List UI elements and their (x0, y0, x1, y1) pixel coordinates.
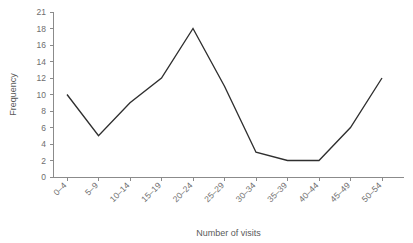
x-axis-tick-label: 35–39 (265, 180, 289, 204)
y-axis-tick-label: 14 (37, 57, 47, 67)
x-axis-tick-label: 30–34 (234, 180, 258, 204)
y-axis-tick-label: 6 (41, 123, 46, 133)
frequency-polygon-chart: 024681012141618210–45–910–1415–1920–2425… (0, 0, 413, 243)
y-axis-tick-label: 21 (37, 7, 47, 17)
y-axis-tick-label: 4 (41, 139, 46, 149)
y-axis-title: Frequency (8, 73, 18, 116)
x-axis-tick-label: 50–54 (360, 180, 384, 204)
y-axis-tick-label: 8 (41, 106, 46, 116)
y-axis-tick-label: 18 (37, 24, 47, 34)
y-axis-tick-label: 0 (41, 172, 46, 182)
y-axis-tick-label: 12 (37, 73, 47, 83)
x-axis-tick-label: 15–19 (139, 180, 163, 204)
x-axis-title: Number of visits (196, 228, 261, 238)
y-axis-tick-label: 2 (41, 156, 46, 166)
y-axis-tick-label: 10 (37, 90, 47, 100)
x-axis-tick-label: 5–9 (83, 180, 100, 197)
x-axis-tick-label: 45–49 (328, 180, 352, 204)
x-axis-tick-label: 20–24 (171, 180, 195, 204)
frequency-data-line (67, 29, 382, 161)
x-axis-tick-label: 25–29 (202, 180, 226, 204)
chart-canvas: 024681012141618210–45–910–1415–1920–2425… (0, 0, 413, 243)
x-axis-tick-label: 0–4 (51, 180, 68, 197)
x-axis-tick-label: 40–44 (297, 180, 321, 204)
y-axis-tick-label: 16 (37, 40, 47, 50)
x-axis-tick-label: 10–14 (108, 180, 132, 204)
